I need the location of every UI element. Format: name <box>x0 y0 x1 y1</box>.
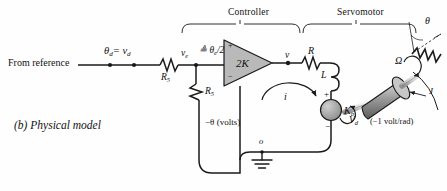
error-definition-label: ≜ θe/2 <box>199 46 224 56</box>
controller-section-label: Controller <box>228 8 269 18</box>
angle-theta-label: θ <box>425 16 430 26</box>
omega-rotation-arrow <box>404 56 421 76</box>
theta-d-eq-subscript: d <box>127 50 131 58</box>
amp-plus-terminal: + <box>228 42 233 50</box>
servomotor-section-label: Servomotor <box>337 8 384 18</box>
back-emf-minus: − <box>325 122 330 131</box>
motor-assembly <box>345 74 418 119</box>
amp-minus-terminal: − <box>228 73 233 81</box>
back-emf-wire <box>262 121 331 153</box>
sensitivity-label: (−1 volt/rad) <box>370 117 413 126</box>
inertia-label: J <box>429 87 433 96</box>
ground-symbol <box>252 152 272 168</box>
current-label: i <box>284 92 287 102</box>
desired-signal-label: θd= vd <box>104 46 131 58</box>
servomotor-bracket <box>303 20 416 33</box>
resistor-r5-shunt <box>190 65 202 160</box>
inertia-pointer <box>410 92 426 96</box>
motor-voltage-label: Vd <box>349 116 358 126</box>
resistor-r5-shunt-label: R5 <box>205 87 214 97</box>
torsion-spring <box>412 48 441 62</box>
resistor-motor-r <box>302 57 330 69</box>
inductor-l <box>330 63 339 99</box>
controller-bracket <box>182 20 300 33</box>
resistor-r5-series <box>160 59 196 71</box>
output-node-v <box>286 61 290 65</box>
figure-caption: (b) Physical model <box>14 120 101 132</box>
ve-sub: e <box>185 52 188 59</box>
figure-physical-model: Controller Servomotor From reference θd=… <box>0 0 447 191</box>
theta-d-equals: = v <box>113 45 127 56</box>
back-emf-source <box>321 100 342 121</box>
feedback-voltage-label: −θ (volts) <box>205 118 240 127</box>
r5-shunt-sub: 5 <box>211 90 214 97</box>
resistor-r5-series-label: R5 <box>161 73 170 83</box>
output-voltage-label: v <box>285 51 289 61</box>
motor-resistance-label: R <box>308 46 314 56</box>
vd-sub: d <box>355 119 358 126</box>
omega-label: Ω <box>395 56 402 66</box>
circuit-schematic <box>0 0 447 191</box>
input-node-left <box>108 63 112 67</box>
error-def-tail: /2 <box>217 45 224 55</box>
input-node-right <box>132 63 136 67</box>
bottom-rail <box>199 152 262 173</box>
r5-series-sub: 5 <box>167 76 170 83</box>
error-voltage-label: ve <box>181 49 188 59</box>
amplifier-gain-label: 2K <box>236 58 249 69</box>
current-loop-arrow <box>262 83 316 100</box>
back-emf-plus: + <box>324 90 329 99</box>
from-reference-label: From reference <box>8 58 69 68</box>
error-def-head: ≜ θ <box>199 45 214 55</box>
ground-node-label: o <box>259 137 263 146</box>
motor-inductance-label: L <box>321 70 327 80</box>
